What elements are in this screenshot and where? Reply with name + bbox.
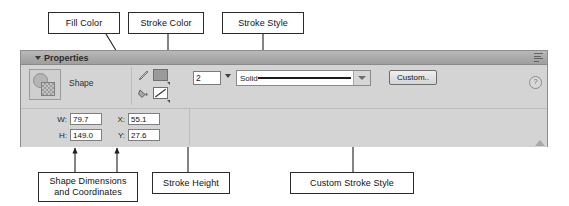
callout-shape-dimensions-line2: and Coordinates (54, 187, 122, 198)
callout-stroke-style: Stroke Style (222, 12, 304, 34)
resize-grip-icon[interactable] (535, 140, 545, 146)
stroke-style-select[interactable]: Solid (236, 70, 371, 86)
stroke-style-preview-line (258, 77, 351, 79)
w-label: W: (57, 115, 67, 124)
callout-fill-color: Fill Color (48, 12, 120, 34)
paint-bucket-icon (137, 87, 150, 100)
panel-titlebar[interactable]: Properties (21, 51, 547, 65)
callout-custom-stroke-style: Custom Stroke Style (290, 172, 414, 194)
object-type-label: Shape (69, 78, 94, 88)
chevron-down-icon[interactable] (353, 71, 370, 85)
stroke-height-input[interactable]: 2 (193, 71, 221, 85)
h-label: H: (57, 131, 67, 140)
callout-shape-dimensions-line1: Shape Dimensions (49, 176, 126, 187)
dimension-field-h: H: 149.0 (57, 129, 102, 141)
callout-stroke-color: Stroke Color (128, 12, 204, 34)
color-tools-cluster (137, 68, 185, 106)
dimension-field-x: X: 55.1 (115, 113, 160, 125)
panel-separator-1 (131, 67, 132, 105)
custom-stroke-style-button[interactable]: Custom.. (389, 70, 437, 85)
stroke-style-value: Solid (240, 74, 258, 83)
stroke-height-value: 2 (196, 73, 201, 83)
y-label: Y: (115, 131, 125, 140)
h-input[interactable]: 149.0 (70, 129, 102, 141)
callout-stroke-height-label: Stroke Height (163, 178, 219, 189)
panel-title: Properties (44, 53, 89, 63)
w-input[interactable]: 79.7 (70, 113, 102, 125)
fill-color-swatch[interactable] (153, 87, 168, 99)
help-icon-glyph: ? (533, 77, 537, 86)
callout-fill-color-label: Fill Color (66, 18, 103, 29)
dimension-field-y: Y: 27.6 (115, 129, 160, 141)
callout-shape-dimensions: Shape Dimensions and Coordinates (38, 172, 138, 202)
y-value: 27.6 (131, 131, 147, 140)
h-value: 149.0 (73, 131, 93, 140)
shape-thumbnail-icon (29, 69, 61, 100)
triangle-down-icon[interactable] (35, 56, 41, 60)
properties-panel: Properties Shape (20, 50, 548, 147)
thumb-square (41, 82, 55, 96)
x-label: X: (115, 115, 125, 124)
panel-grip-icon[interactable] (23, 53, 32, 62)
callout-stroke-style-label: Stroke Style (238, 18, 288, 29)
custom-button-label: Custom.. (397, 73, 429, 82)
callout-stroke-height: Stroke Height (152, 172, 230, 194)
help-icon[interactable]: ? (529, 76, 542, 89)
callout-stroke-color-label: Stroke Color (140, 18, 191, 29)
x-value: 55.1 (131, 115, 147, 124)
panel-menu-icon[interactable] (534, 53, 544, 62)
shape-dimensions-group: W: 79.7 X: 55.1 H: 149. (57, 112, 181, 144)
dimension-field-w: W: 79.7 (57, 113, 102, 125)
fill-swatch-caret-icon[interactable] (167, 100, 170, 103)
pencil-icon (138, 69, 150, 81)
stroke-color-swatch[interactable] (153, 69, 168, 81)
panel-row-lower: W: 79.7 X: 55.1 H: 149. (21, 109, 547, 147)
panel-row-upper: Shape (21, 65, 547, 109)
x-input[interactable]: 55.1 (128, 113, 160, 125)
w-value: 79.7 (73, 115, 89, 124)
panel-body: Shape (21, 65, 547, 147)
callout-custom-stroke-style-label: Custom Stroke Style (310, 178, 394, 189)
y-input[interactable]: 27.6 (128, 129, 160, 141)
stroke-swatch-caret-icon[interactable] (167, 82, 170, 85)
stroke-height-caret-icon[interactable] (225, 74, 231, 78)
annotated-screenshot: Fill Color Stroke Color Stroke Style Pro… (0, 0, 569, 206)
fill-none-diagonal-icon (154, 88, 167, 98)
panel-separator-2 (189, 109, 190, 145)
